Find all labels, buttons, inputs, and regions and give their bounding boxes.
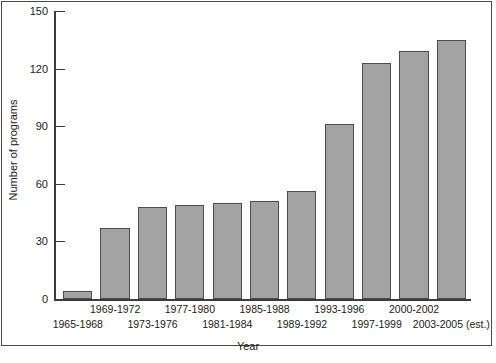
x-axis-title: Year	[0, 340, 496, 352]
y-axis-tick	[56, 299, 65, 300]
y-axis-tick-labels: 0306090120150	[20, 11, 48, 301]
bar	[437, 40, 466, 299]
y-axis-spine	[54, 11, 56, 301]
x-axis-tick-label: 1993-1996	[314, 303, 364, 316]
x-axis-tick-label: 1969-1972	[90, 303, 140, 316]
x-axis-tick-label: 2003-2005 (est.)	[413, 318, 490, 331]
plot-area	[54, 11, 471, 301]
x-axis-tick-label: 1997-1999	[352, 318, 402, 331]
x-axis-tick-labels: 1965-19681969-19721973-19761977-19801981…	[54, 301, 496, 333]
y-axis-tick-label: 90	[22, 121, 48, 132]
y-axis-tick-label: 60	[22, 179, 48, 190]
y-axis-tick-label: 150	[22, 6, 48, 17]
x-axis-tick-label: 1989-1992	[277, 318, 327, 331]
bar	[287, 191, 316, 299]
bar	[250, 201, 279, 299]
y-axis-tick	[56, 241, 65, 242]
y-axis-tick	[56, 11, 65, 12]
y-axis-tick-label: 120	[22, 64, 48, 75]
x-axis-tick-label: 1981-1984	[202, 318, 252, 331]
y-axis-title: Number of programs	[6, 0, 20, 300]
bar	[175, 205, 204, 299]
bar	[362, 63, 391, 299]
x-axis-tick-label: 2000-2002	[389, 303, 439, 316]
x-axis-tick-label: 1965-1968	[53, 318, 103, 331]
bar	[213, 203, 242, 299]
x-axis-tick-label: 1985-1988	[240, 303, 290, 316]
y-axis-tick	[56, 69, 65, 70]
bar	[100, 228, 129, 299]
x-axis-tick-label: 1973-1976	[127, 318, 177, 331]
x-axis-tick-label: 1977-1980	[165, 303, 215, 316]
bar	[138, 207, 167, 299]
y-axis-tick-label: 30	[22, 236, 48, 247]
y-axis-tick	[56, 126, 65, 127]
bar	[325, 124, 354, 299]
bar	[63, 291, 92, 299]
y-axis-tick-label: 0	[22, 294, 48, 305]
y-axis-tick	[56, 184, 65, 185]
bar-chart-figure: Number of programs 0306090120150 1965-19…	[0, 0, 496, 363]
bar	[399, 51, 428, 299]
